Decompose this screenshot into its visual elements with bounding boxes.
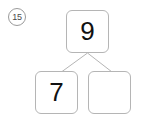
bond-box-whole[interactable]: 9 [66, 10, 109, 53]
number-bond-problem: 15 9 7 [0, 0, 147, 123]
bond-box-part-left[interactable]: 7 [35, 71, 78, 114]
problem-number-badge: 15 [8, 8, 26, 26]
bond-box-part-left-value: 7 [49, 79, 63, 107]
problem-number-label: 15 [12, 13, 21, 22]
bond-box-whole-value: 9 [80, 18, 94, 46]
connector-line-left [60, 53, 88, 73]
bond-box-part-right[interactable] [88, 71, 131, 114]
connector-line-right [88, 53, 113, 72]
